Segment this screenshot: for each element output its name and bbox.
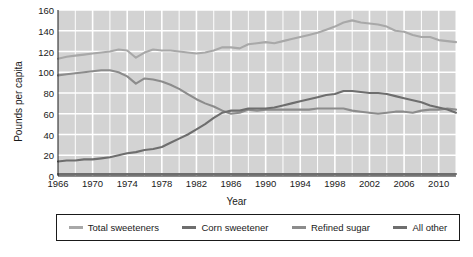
x-tick-label: 1986 <box>220 178 241 189</box>
legend-item[interactable]: Corn sweetener <box>182 222 268 233</box>
y-axis-tick-labels: 020406080100120140160 <box>18 0 54 257</box>
x-axis-title: Year <box>0 196 473 207</box>
legend-item-label: Refined sugar <box>311 222 370 233</box>
x-tick-label: 1998 <box>324 178 345 189</box>
legend-line-icon <box>393 226 407 229</box>
x-tick-label: 2010 <box>428 178 449 189</box>
chart-figure: Pounds per capita 020406080100120140160 … <box>0 0 473 257</box>
legend-line-icon <box>69 226 83 229</box>
legend-item[interactable]: All other <box>393 222 447 233</box>
y-tick-label: 80 <box>20 88 54 99</box>
legend-item-label: All other <box>412 222 447 233</box>
y-tick-label: 20 <box>20 150 54 161</box>
x-tick-label: 2006 <box>394 178 415 189</box>
legend-item[interactable]: Total sweeteners <box>69 222 159 233</box>
x-tick-label: 1970 <box>82 178 103 189</box>
legend-line-icon <box>292 226 306 229</box>
y-tick-label: 120 <box>20 46 54 57</box>
x-tick-label: 1994 <box>290 178 311 189</box>
x-tick-label: 2002 <box>359 178 380 189</box>
y-tick-label: 60 <box>20 108 54 119</box>
x-tick-label: 1966 <box>47 178 68 189</box>
y-tick-label: 160 <box>20 5 54 16</box>
x-tick-label: 1978 <box>151 178 172 189</box>
y-tick-label: 140 <box>20 25 54 36</box>
x-tick-label: 1974 <box>117 178 138 189</box>
y-tick-label: 100 <box>20 67 54 78</box>
x-tick-label: 1990 <box>255 178 276 189</box>
legend-item-label: Corn sweetener <box>201 222 268 233</box>
legend-item-label: Total sweeteners <box>88 222 159 233</box>
x-tick-label: 1982 <box>186 178 207 189</box>
legend-item[interactable]: Refined sugar <box>292 222 370 233</box>
chart-legend: Total sweetenersCorn sweetenerRefined su… <box>56 214 460 241</box>
legend-line-icon <box>182 226 196 229</box>
y-tick-label: 40 <box>20 129 54 140</box>
